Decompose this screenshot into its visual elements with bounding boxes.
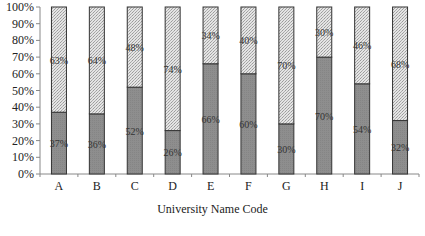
y-tick-label: 70% (12, 50, 34, 64)
data-label-upper: 70% (277, 60, 295, 71)
x-tick-label: H (320, 179, 329, 193)
x-tick-label: I (360, 179, 364, 193)
y-tick-label: 10% (12, 150, 34, 164)
bar-C: 52%48% (126, 7, 144, 174)
y-tick-label: 90% (12, 17, 34, 31)
y-tick-label: 40% (12, 100, 34, 114)
x-tick-label: C (131, 179, 139, 193)
x-tick-label: E (207, 179, 214, 193)
x-tick-label: F (245, 179, 252, 193)
data-label-upper: 68% (391, 59, 409, 70)
y-tick-label: 80% (12, 33, 34, 47)
bar-A: 37%63% (50, 7, 68, 174)
data-label-upper: 40% (239, 35, 257, 46)
data-label-upper: 64% (88, 55, 106, 66)
data-label-lower: 30% (277, 144, 295, 155)
x-tick-label: B (93, 179, 101, 193)
bar-I: 54%46% (353, 7, 371, 174)
bar-H: 70%30% (315, 7, 333, 174)
y-tick-label: 0% (18, 167, 34, 181)
x-tick-label: G (282, 179, 291, 193)
y-tick-label: 30% (12, 117, 34, 131)
data-label-upper: 34% (201, 30, 219, 41)
bar-B: 36%64% (88, 7, 106, 174)
bar-F: 60%40% (239, 7, 257, 174)
bar-E: 66%34% (201, 7, 219, 174)
data-label-upper: 48% (126, 42, 144, 53)
data-label-lower: 37% (50, 138, 68, 149)
y-tick-label: 100% (6, 0, 34, 14)
bar-J: 32%68% (391, 7, 409, 174)
bar-G: 30%70% (277, 7, 295, 174)
data-label-lower: 54% (353, 124, 371, 135)
data-label-upper: 74% (163, 64, 181, 75)
data-label-upper: 63% (50, 55, 68, 66)
y-tick-label: 60% (12, 67, 34, 81)
y-tick-label: 50% (12, 84, 34, 98)
data-label-upper: 46% (353, 40, 371, 51)
data-label-lower: 66% (201, 114, 219, 125)
y-tick-label: 20% (12, 134, 34, 148)
x-tick-label: A (55, 179, 64, 193)
data-label-lower: 70% (315, 111, 333, 122)
data-label-lower: 32% (391, 142, 409, 153)
x-axis-title: University Name Code (0, 202, 425, 217)
data-label-upper: 30% (315, 27, 333, 38)
x-tick-label: D (168, 179, 177, 193)
data-label-lower: 52% (126, 126, 144, 137)
data-label-lower: 26% (163, 147, 181, 158)
data-label-lower: 36% (88, 139, 106, 150)
bar-D: 26%74% (163, 7, 181, 174)
data-label-lower: 60% (239, 119, 257, 130)
plot-area: 0%10%20%30%40%50%60%70%80%90%100%ABCDEFG… (0, 0, 425, 236)
x-tick-label: J (398, 179, 403, 193)
stacked-bar-chart: 0%10%20%30%40%50%60%70%80%90%100%ABCDEFG… (0, 0, 425, 236)
